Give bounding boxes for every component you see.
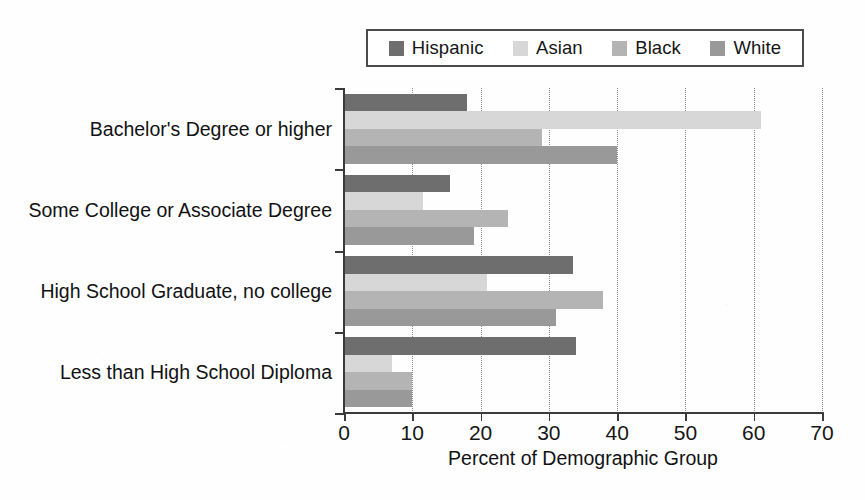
y-tick <box>335 413 344 415</box>
y-axis-category-labels: Bachelor's Degree or higherSome College … <box>0 0 332 500</box>
legend-entry-asian[interactable]: Asian <box>513 37 583 59</box>
category-label: Some College or Associate Degree <box>2 198 332 221</box>
gridline-70 <box>822 88 823 413</box>
legend-entry-black[interactable]: Black <box>612 37 681 59</box>
bar <box>344 256 573 274</box>
x-tick-20 <box>481 412 483 421</box>
x-tick-50 <box>685 412 687 421</box>
gridline-60 <box>754 88 755 413</box>
legend-label-asian: Asian <box>536 37 583 59</box>
bar <box>344 337 576 355</box>
y-tick <box>335 169 344 171</box>
x-ticklabel-30: 30 <box>537 421 560 445</box>
bar <box>344 390 412 408</box>
x-tick-30 <box>549 412 551 421</box>
gridline-30 <box>549 88 550 413</box>
x-tick-0 <box>344 412 346 421</box>
y-tick <box>335 88 344 90</box>
gridline-40 <box>617 88 618 413</box>
bar <box>344 372 412 390</box>
legend-label-black: Black <box>635 37 681 59</box>
legend-label-white: White <box>733 37 781 59</box>
category-label: Bachelor's Degree or higher <box>2 117 332 140</box>
bar <box>344 274 487 292</box>
bar <box>344 227 474 245</box>
gridline-50 <box>685 88 686 413</box>
bar <box>344 146 617 164</box>
x-ticklabel-20: 20 <box>469 421 492 445</box>
bar <box>344 291 603 309</box>
bar <box>344 111 761 129</box>
x-ticklabel-50: 50 <box>674 421 697 445</box>
x-tick-60 <box>754 412 756 421</box>
y-tick <box>335 251 344 253</box>
legend-entry-hispanic[interactable]: Hispanic <box>389 37 484 59</box>
chart-legend: Hispanic Asian Black White <box>366 29 804 67</box>
category-label: High School Graduate, no college <box>2 280 332 303</box>
y-tick <box>335 332 344 334</box>
x-ticklabel-0: 0 <box>338 421 350 445</box>
bar <box>344 175 450 193</box>
legend-label-hispanic: Hispanic <box>412 37 484 59</box>
legend-swatch-hispanic <box>389 41 404 56</box>
x-ticklabel-60: 60 <box>742 421 765 445</box>
bar <box>344 94 467 112</box>
x-axis-spine <box>343 412 823 414</box>
legend-entry-white[interactable]: White <box>710 37 781 59</box>
x-ticklabel-40: 40 <box>605 421 628 445</box>
category-label: Less than High School Diploma <box>2 361 332 384</box>
x-ticklabel-10: 10 <box>401 421 424 445</box>
legend-swatch-white <box>710 41 725 56</box>
x-tick-40 <box>617 412 619 421</box>
x-tick-70 <box>822 412 824 421</box>
x-tick-10 <box>412 412 414 421</box>
legend-swatch-asian <box>513 41 528 56</box>
bar <box>344 309 556 327</box>
bar <box>344 129 542 147</box>
bar <box>344 192 423 210</box>
x-ticklabel-70: 70 <box>810 421 833 445</box>
bar <box>344 355 392 373</box>
bar <box>344 210 508 228</box>
x-axis-title: Percent of Demographic Group <box>344 447 822 470</box>
chart-figure: Hispanic Asian Black White Bachelor's De… <box>0 0 865 500</box>
legend-swatch-black <box>612 41 627 56</box>
plot-area <box>344 88 822 413</box>
